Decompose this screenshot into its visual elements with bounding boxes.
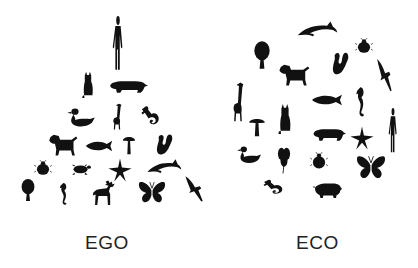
squirrel-icon (328, 50, 350, 78)
fish-icon (84, 136, 114, 156)
giraffe-icon (107, 102, 127, 130)
human-icon (384, 108, 402, 154)
ego-label: EGO (85, 232, 129, 254)
moose-icon (90, 180, 118, 206)
turtle-icon (70, 160, 92, 178)
mushroom-icon (248, 116, 266, 138)
squirrel-icon (152, 132, 174, 158)
cat-icon (80, 70, 96, 98)
pig-icon (312, 180, 342, 200)
bear-icon (106, 76, 148, 96)
mushroom-icon (122, 134, 136, 156)
dog-icon (46, 132, 78, 160)
lizard-icon (262, 178, 288, 198)
starfish-icon (108, 158, 132, 182)
dolphin-icon (296, 20, 338, 44)
cat-icon (276, 102, 294, 134)
seahorse-icon (352, 86, 370, 118)
butterfly-icon (356, 154, 386, 182)
dolphin-icon (146, 158, 182, 180)
ladybug-icon (310, 152, 328, 170)
ladybug-icon (355, 38, 373, 54)
ladybug-icon (34, 160, 52, 176)
tree-icon (250, 40, 274, 70)
duck-icon (66, 106, 96, 132)
bird-icon (184, 174, 208, 202)
fish-icon (310, 90, 344, 110)
lizard-icon (140, 104, 164, 130)
giraffe-icon (226, 80, 250, 122)
clover-icon (276, 146, 292, 174)
starfish-icon (350, 126, 374, 150)
bear-icon (310, 124, 346, 144)
eco-label: ECO (296, 232, 339, 254)
butterfly-icon (138, 180, 166, 206)
human-icon (107, 16, 129, 72)
duck-icon (236, 144, 262, 168)
tree-icon (18, 178, 38, 202)
ego-eco-diagram: EGO ECO (0, 0, 418, 268)
bird-icon (376, 56, 396, 92)
dog-icon (276, 62, 310, 90)
seahorse-icon (56, 182, 72, 206)
